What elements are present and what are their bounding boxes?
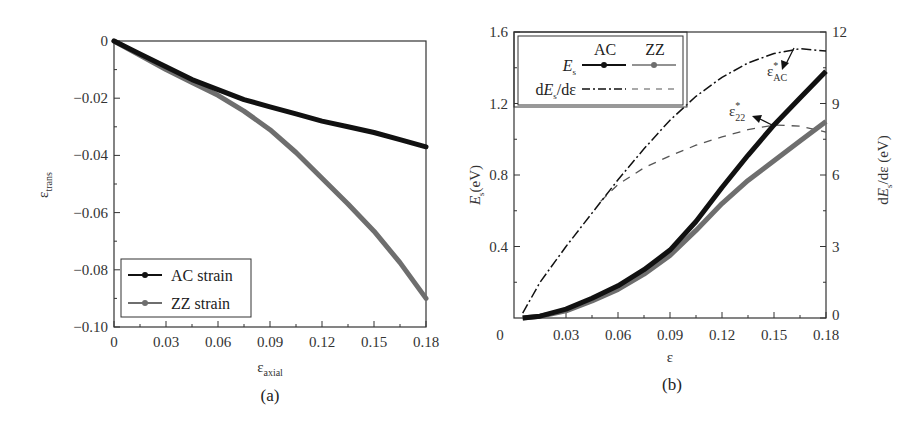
legend-row-d-suffix: /dε [557,81,576,98]
svg-text:Es(eV): Es(eV) [467,165,486,206]
y-axis-title-a: εtrans [35,172,54,198]
y-tick-label-b-right: 3 [832,239,840,255]
x-tick-label-a: 0.12 [309,334,335,350]
y-tick-label-a: −0.08 [73,262,108,278]
y-title-b-right-E: E [875,188,891,198]
arrow-icon-zz [752,115,772,125]
annotation-eps-zz-star: * [735,100,740,111]
legend-a: AC strain ZZ strain [121,259,251,317]
legend-row-es-s: s [572,67,576,77]
y-tick-label-a: −0.02 [73,90,108,106]
y-title-b-right-rest: /dε (eV) [875,135,892,184]
legend-b: AC ZZ Es dEs/dε [514,32,687,107]
x-tick-label-b: 0.15 [761,327,787,343]
annotation-eps-ac-star: * [773,60,778,71]
x-axis-title-a-sub: axial [263,367,283,378]
annotation-eps-zz: ε*22 [729,100,772,125]
curve-deriv-zz [601,125,826,201]
x-tick-label-b: 0.12 [709,327,735,343]
y-tick-label-b-right: 0 [832,307,840,323]
y-tick-label-b-left: 1.2 [489,96,508,112]
panel-label-b: (b) [662,375,682,394]
panel-label-a: (a) [261,386,280,405]
y-axis-title-b-right: dEs/dε (eV) [875,135,894,204]
y-title-b-E: E [467,196,483,206]
x-tick-label-a: 0.03 [153,334,179,350]
y-tick-label-b-left: 1.6 [489,24,508,40]
legend-ac-label: AC strain [171,267,233,284]
svg-text:dEs/dε (eV): dEs/dε (eV) [875,135,894,204]
curve-es-ac [523,71,826,318]
x-tick-label-a: 0.09 [257,334,283,350]
y-tick-label-a: −0.04 [73,147,108,163]
legend-col-zz: ZZ [645,41,665,58]
y-tick-label-b-right: 12 [832,24,847,40]
curve-es-zz [523,121,826,318]
y-tick-label-a: 0 [101,33,109,49]
x-tick-label-a: 0.15 [361,334,387,350]
legend-row-d-E: E [543,81,554,98]
y-tick-label-b-left: 0.8 [489,167,508,183]
annotation-eps-ac: ε*AC [767,48,794,83]
annotation-eps-ac-sub: AC [773,72,787,83]
legend-col-ac: AC [594,41,616,58]
x-axis-title-b: ε [667,349,673,365]
annotation-eps-zz-label: ε*22 [729,100,745,123]
y-axis-title-a-sub: trans [43,172,54,192]
legend-zz-label: ZZ strain [171,295,230,312]
x-tick-label-b: 0.03 [553,327,579,343]
y-tick-label-a: −0.06 [73,205,108,221]
panel-a: 00.030.060.090.120.150.180−0.02−0.04−0.0… [35,33,439,405]
panel-b: 00.030.060.090.120.150.180.40.81.21.6036… [467,24,894,394]
figure: 00.030.060.090.120.150.180−0.02−0.04−0.0… [0,0,920,432]
svg-text:εtrans: εtrans [35,172,54,198]
y-axis-title-b-left: Es(eV) [467,165,486,206]
x-tick-label-a: 0 [110,334,118,350]
x-tick-label-b: 0.09 [657,327,683,343]
y-tick-label-b-right: 9 [832,96,840,112]
x-tick-label-a: 0.06 [205,334,232,350]
x-axis-title-a: εaxial [257,359,283,378]
y-tick-label-a: −0.10 [73,319,108,335]
y-tick-label-b-left: 0.4 [489,239,508,255]
annotation-eps-zz-sub: 22 [735,112,745,123]
legend-row-d-prefix: d [536,81,544,98]
y-title-b-unit: (eV) [467,165,484,192]
legend-row-es-E: E [562,57,573,74]
x-tick-label-b: 0.18 [813,327,839,343]
x-tick-label-a: 0.18 [413,334,439,350]
x-tick-label-b: 0.06 [605,327,632,343]
y-tick-label-b-right: 6 [832,167,840,183]
